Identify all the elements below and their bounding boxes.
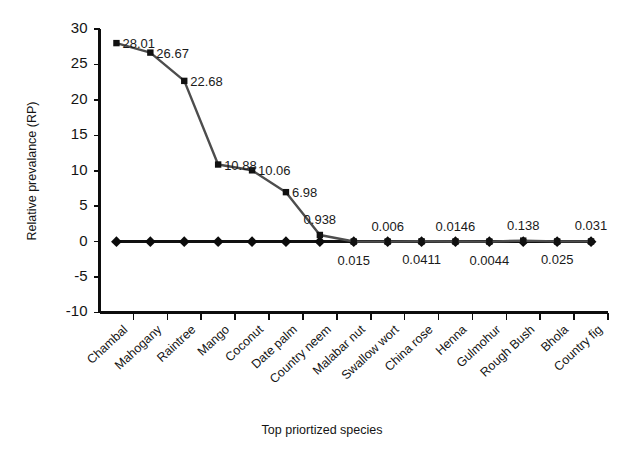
data-point-marker (588, 238, 594, 244)
data-point-label: 0.138 (507, 218, 540, 233)
y-tick-label: -10 (66, 302, 88, 319)
y-axis-title: Relative prevalance (RP) (25, 102, 39, 241)
data-point-label: 0.0411 (402, 252, 441, 267)
data-point-marker (486, 238, 492, 244)
y-tick-label: -5 (74, 267, 87, 284)
line-chart: 302520151050-5-10 Relative prevalance (R… (0, 0, 624, 454)
y-tick-label: 20 (71, 90, 88, 107)
data-point-marker (215, 161, 221, 167)
data-point-label: 22.68 (190, 74, 223, 89)
y-tick-label: 30 (71, 19, 88, 36)
data-point-label: 0.0044 (469, 253, 509, 268)
data-point-label: 6.98 (292, 185, 317, 200)
data-point-marker (452, 238, 458, 244)
y-tick-label: 5 (79, 196, 87, 213)
data-point-marker (418, 238, 424, 244)
data-point-marker (283, 189, 289, 195)
y-tick-label: 25 (71, 54, 88, 71)
data-point-label: 0.031 (575, 218, 608, 233)
data-point-label: 0.006 (371, 219, 404, 234)
data-point-marker (384, 238, 390, 244)
data-point-label: 10.06 (258, 163, 291, 178)
data-point-label: 0.015 (337, 253, 370, 268)
data-point-label: 28.01 (122, 36, 155, 51)
data-point-marker (317, 232, 323, 238)
data-point-marker (113, 40, 119, 46)
y-tick-label: 10 (71, 161, 88, 178)
data-point-marker (554, 238, 560, 244)
y-tick-label: 0 (79, 232, 87, 249)
data-point-label: 0.0146 (436, 219, 476, 234)
chart-container: 302520151050-5-10 Relative prevalance (R… (0, 0, 624, 454)
data-point-label: 26.67 (156, 46, 189, 61)
y-tick-label: 15 (71, 125, 88, 142)
data-point-marker (520, 237, 526, 243)
data-point-marker (351, 238, 357, 244)
data-point-label: 0.025 (541, 252, 574, 267)
data-point-marker (181, 78, 187, 84)
x-axis-title: Top priortized species (262, 423, 383, 437)
data-point-label: 0.938 (304, 212, 337, 227)
data-point-label: 10.88 (224, 158, 257, 173)
